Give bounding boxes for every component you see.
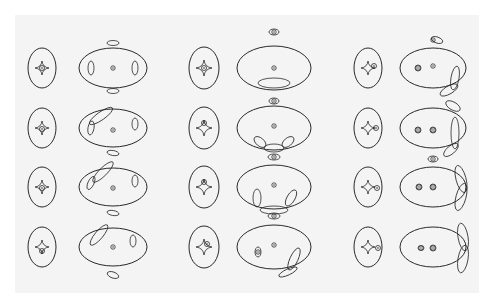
image-dot [432,158,433,159]
image-dot [112,129,113,130]
image-dot [273,156,274,157]
source-dot [377,247,379,249]
image-dot [273,67,274,68]
source-dot [203,67,205,69]
source-dot [41,67,43,69]
image-dot [420,247,421,248]
source-dot [203,122,205,124]
image-dot [112,187,113,188]
source-dot [376,187,378,189]
source-dot [41,128,43,130]
caustic-grid-figure [0,0,493,305]
source-dot [203,181,205,183]
source-dot [375,127,377,129]
image-dot [273,184,274,185]
image-dot [273,215,274,216]
image-dot [432,247,433,248]
image-dot [273,100,274,101]
image-dot [273,125,274,126]
image-dot [257,251,258,252]
image-dot [418,186,419,187]
source-dot [373,65,375,67]
source-dot [206,243,208,245]
image-dot [432,186,433,187]
image-dot [273,31,274,32]
figure-canvas [0,0,493,305]
image-dot [432,39,433,40]
image-dot [432,65,433,66]
source-dot [41,250,43,252]
image-dot [417,129,418,130]
image-dot [112,67,113,68]
image-dot [417,67,418,68]
image-dot [112,246,113,247]
source-dot [41,187,43,189]
image-dot [273,244,274,245]
image-dot [432,129,433,130]
